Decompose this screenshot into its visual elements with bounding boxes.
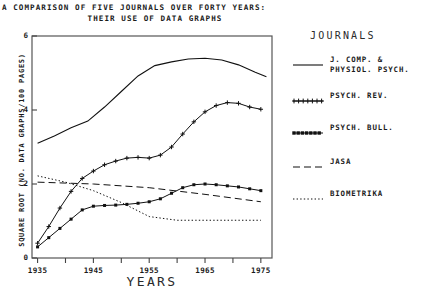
marker-square bbox=[181, 186, 184, 189]
x-tick-label: 1935 bbox=[21, 266, 55, 275]
legend-symbol-solid-icon bbox=[292, 58, 324, 72]
legend-item[interactable]: J. COMP. & PHYSIOL. PSYCH. bbox=[292, 58, 428, 82]
x-tick-label: 1945 bbox=[76, 266, 110, 275]
x-axis-label: YEARS bbox=[32, 274, 272, 289]
y-tick-label: 4 bbox=[18, 105, 28, 114]
marker-square bbox=[137, 202, 140, 205]
legend-item[interactable]: PSYCH. REV. bbox=[292, 94, 428, 118]
marker-square bbox=[318, 131, 321, 134]
marker-square bbox=[259, 189, 262, 192]
chart-page: A COMPARISON OF FIVE JOURNALS OVER FORTY… bbox=[0, 0, 428, 298]
y-tick-label: 2 bbox=[18, 179, 28, 188]
marker-square bbox=[192, 183, 195, 186]
marker-square bbox=[92, 205, 95, 208]
series-line bbox=[38, 176, 261, 220]
marker-square bbox=[58, 227, 61, 230]
y-axis-label: SQUARE ROOT (NO. DATA GRAPHS/100 PAGES) bbox=[18, 35, 26, 265]
series-plus bbox=[35, 100, 263, 245]
legend-symbol-square-icon bbox=[292, 126, 324, 140]
legend: JOURNALS J. COMP. & PHYSIOL. PSYCH.PSYCH… bbox=[292, 30, 428, 220]
marker-square bbox=[313, 131, 316, 134]
legend-item[interactable]: JASA bbox=[292, 160, 428, 184]
x-tick-label: 1965 bbox=[188, 266, 222, 275]
legend-item-label: PSYCH. REV. bbox=[330, 91, 388, 101]
series-line bbox=[38, 58, 267, 143]
legend-item-label: PSYCH. BULL. bbox=[330, 123, 394, 133]
marker-square bbox=[159, 197, 162, 200]
x-tick-label: 1955 bbox=[132, 266, 166, 275]
marker-square bbox=[204, 183, 207, 186]
legend-item-label: JASA bbox=[330, 157, 351, 167]
legend-item-label: BIOMETRIKA bbox=[330, 189, 383, 199]
marker-square bbox=[305, 131, 308, 134]
marker-square bbox=[226, 184, 229, 187]
y-tick-label: 0 bbox=[18, 253, 28, 262]
marker-square bbox=[47, 236, 50, 239]
series-dotted bbox=[38, 176, 261, 220]
legend-item[interactable]: PSYCH. BULL. bbox=[292, 126, 428, 150]
legend-item[interactable]: BIOMETRIKA bbox=[292, 192, 428, 216]
legend-symbol-dashed-icon bbox=[292, 160, 324, 174]
legend-symbol-dotted-icon bbox=[292, 192, 324, 206]
x-tick-label: 1975 bbox=[244, 266, 278, 275]
series-solid bbox=[38, 58, 267, 143]
series-line bbox=[38, 103, 261, 244]
marker-square bbox=[292, 131, 295, 134]
marker-square bbox=[301, 131, 304, 134]
marker-square bbox=[297, 131, 300, 134]
marker-square bbox=[148, 200, 151, 203]
marker-square bbox=[215, 183, 218, 186]
y-tick-label: 6 bbox=[18, 31, 28, 40]
marker-square bbox=[36, 245, 39, 248]
marker-square bbox=[248, 187, 251, 190]
marker-square bbox=[103, 204, 106, 207]
legend-symbol-plus-icon bbox=[292, 94, 324, 108]
marker-square bbox=[170, 192, 173, 195]
marker-square bbox=[70, 218, 73, 221]
plot-frame bbox=[32, 36, 272, 258]
plot-area: SQUARE ROOT (NO. DATA GRAPHS/100 PAGES) … bbox=[0, 0, 300, 298]
plot-svg bbox=[0, 0, 300, 298]
legend-item-label: J. COMP. & PHYSIOL. PSYCH. bbox=[330, 55, 410, 74]
marker-square bbox=[237, 185, 240, 188]
marker-square bbox=[81, 208, 84, 211]
legend-heading: JOURNALS bbox=[310, 30, 376, 41]
marker-square bbox=[114, 204, 117, 207]
marker-square bbox=[309, 131, 312, 134]
